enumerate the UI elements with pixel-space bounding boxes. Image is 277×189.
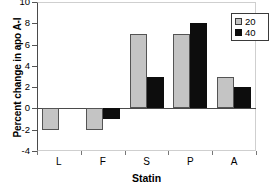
y-tick-mark [32, 23, 37, 24]
y-tick-label: 2 [6, 82, 30, 92]
zero-baseline [37, 108, 256, 109]
y-tick-label: -4 [6, 146, 30, 156]
legend-swatch-40-icon [235, 29, 242, 36]
x-tick-mark [212, 151, 213, 155]
y-tick-label: 6 [6, 40, 30, 50]
x-tick-label-L: L [39, 157, 79, 167]
legend-label-40: 40 [245, 28, 256, 38]
x-tick-mark [256, 151, 257, 155]
x-tick-mark [168, 151, 169, 155]
bar-P-40 [190, 23, 207, 108]
chart-figure: Percent change in apo A-I 1086420-2-4 LF… [0, 0, 277, 189]
legend-swatch-20-icon [235, 18, 242, 25]
y-tick-label: -2 [6, 125, 30, 135]
bar-F-40 [103, 108, 120, 119]
legend-label-20: 20 [245, 17, 256, 27]
y-tick-mark [32, 45, 37, 46]
y-tick-mark [32, 87, 37, 88]
y-tick-mark [32, 66, 37, 67]
y-tick-mark [32, 130, 37, 131]
legend-item-20: 20 [235, 16, 265, 27]
legend: 20 40 [231, 13, 269, 41]
x-tick-mark [37, 151, 38, 155]
bar-S-20 [130, 34, 147, 109]
x-axis-title: Statin [37, 172, 256, 184]
y-tick-mark [32, 2, 37, 3]
x-tick-mark [81, 151, 82, 155]
bar-L-20 [42, 108, 59, 129]
bar-P-20 [173, 34, 190, 109]
y-tick-label: 4 [6, 61, 30, 71]
bar-F-20 [86, 108, 103, 129]
x-tick-label-P: P [170, 157, 210, 167]
x-tick-label-A: A [214, 157, 254, 167]
y-tick-label: 10 [6, 0, 30, 7]
x-tick-label-F: F [83, 157, 123, 167]
bar-S-40 [147, 77, 164, 109]
bar-A-40 [234, 87, 251, 108]
legend-item-40: 40 [235, 27, 265, 38]
x-tick-label-S: S [127, 157, 167, 167]
y-tick-label: 0 [6, 103, 30, 113]
x-tick-mark [125, 151, 126, 155]
bar-A-20 [217, 77, 234, 109]
y-tick-label: 8 [6, 18, 30, 28]
